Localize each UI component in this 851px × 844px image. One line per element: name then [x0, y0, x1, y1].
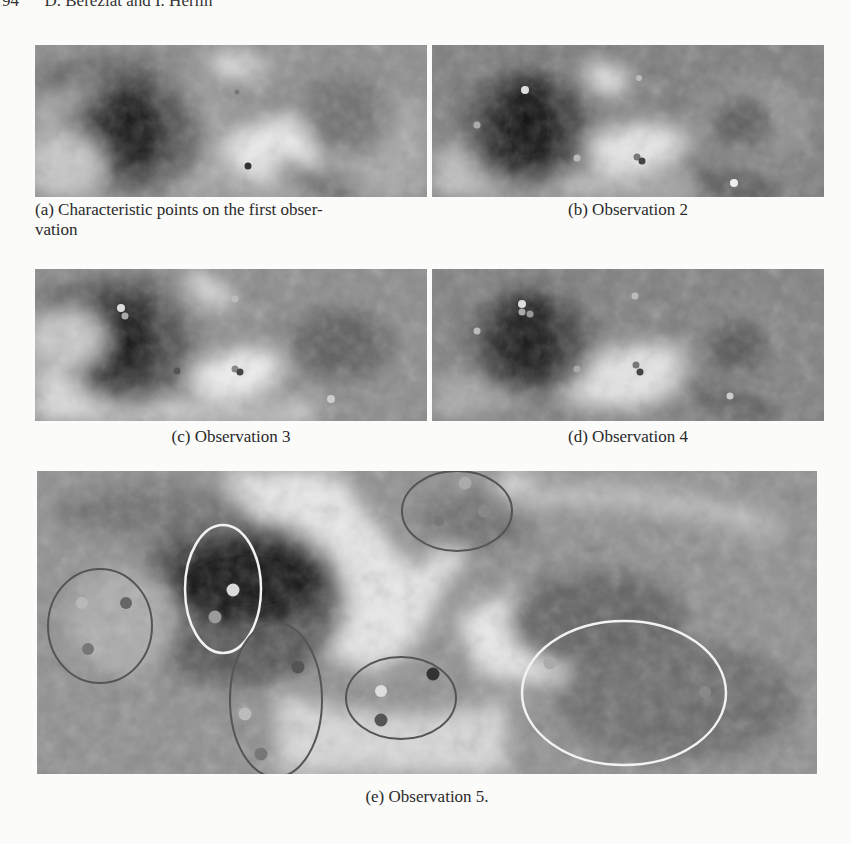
panel-c-image — [35, 269, 427, 421]
caption-e-text: (e) Observation 5. — [365, 787, 488, 806]
panel-e-image — [37, 471, 817, 774]
panel-a-image — [35, 45, 427, 197]
caption-c: (c) Observation 3 — [35, 427, 427, 447]
characteristic-point — [235, 90, 240, 95]
panel-b-image — [432, 45, 824, 197]
page-number: 94 — [2, 0, 19, 10]
caption-a-line1: (a) Characteristic points on the first o… — [35, 200, 430, 220]
caption-b-text: (b) Observation 2 — [568, 200, 688, 219]
panel-d-image — [432, 269, 824, 421]
caption-e: (e) Observation 5. — [37, 787, 817, 807]
authors: D. Béréziat and I. Herlin — [45, 0, 213, 10]
characteristic-point — [245, 163, 252, 170]
caption-c-text: (c) Observation 3 — [172, 427, 291, 446]
page-header: 94 D. Béréziat and I. Herlin — [2, 0, 213, 11]
caption-b: (b) Observation 2 — [432, 200, 824, 220]
caption-d: (d) Observation 4 — [432, 427, 824, 447]
caption-d-text: (d) Observation 4 — [568, 427, 688, 446]
caption-a: (a) Characteristic points on the first o… — [35, 200, 430, 240]
caption-a-line2: vation — [35, 220, 430, 240]
